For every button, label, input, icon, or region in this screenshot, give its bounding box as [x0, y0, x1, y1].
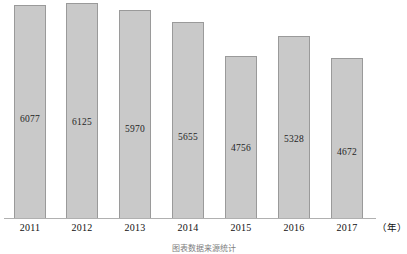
bar-2013: [119, 10, 151, 218]
bar-value-2017: 4672: [331, 147, 363, 157]
x-tick-2015: 2015: [225, 221, 257, 235]
bar-value-2013: 5970: [119, 124, 151, 134]
bar-value-2011: 6077: [14, 114, 46, 124]
bar-2012: [66, 3, 98, 218]
bar-2015: [225, 56, 257, 218]
chart-caption: 图表数据来源统计: [0, 243, 407, 254]
bar-value-2015: 4756: [225, 143, 257, 153]
bar-value-2012: 6125: [66, 117, 98, 127]
x-tick-2012: 2012: [66, 221, 98, 235]
x-tick-2013: 2013: [119, 221, 151, 235]
bar-2016: [278, 36, 310, 218]
bar-value-2016: 5328: [278, 134, 310, 144]
x-axis-unit-label: （年）: [377, 221, 407, 235]
x-tick-2011: 2011: [14, 221, 46, 235]
bar-2011: [14, 5, 46, 218]
bar-2014: [172, 22, 204, 218]
x-axis-labels: 2011 2012 2013 2014 2015 2016 2017 （年）: [0, 221, 407, 237]
bar-value-2014: 5655: [172, 132, 204, 142]
bar-chart: 6077 6125 5970 5655 4756 5328 4672 2011 …: [0, 0, 407, 254]
plot-area: 6077 6125 5970 5655 4756 5328 4672: [0, 0, 407, 219]
x-tick-2016: 2016: [278, 221, 310, 235]
x-tick-2014: 2014: [172, 221, 204, 235]
x-tick-2017: 2017: [331, 221, 363, 235]
bar-2017: [331, 58, 363, 218]
x-axis-line: [4, 218, 376, 219]
